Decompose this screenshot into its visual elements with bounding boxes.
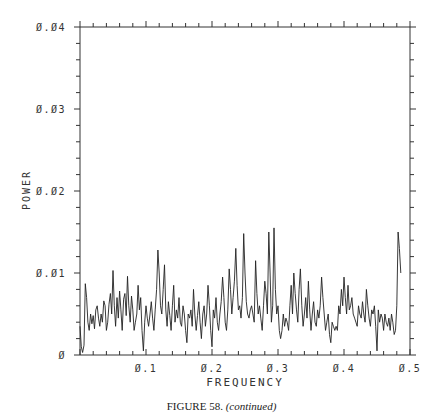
svg-text:Ø.4: Ø.4	[333, 363, 356, 374]
axes-frame	[80, 27, 410, 355]
svg-text:Ø.3: Ø.3	[267, 363, 290, 374]
svg-text:Ø.1: Ø.1	[135, 363, 158, 374]
svg-text:Ø.5: Ø.5	[399, 363, 422, 374]
y-tick-labels: ØØ.Ø1Ø.Ø2Ø.Ø3Ø.Ø4	[36, 22, 66, 361]
power-spectrum-chart: ØØ.Ø1Ø.Ø2Ø.Ø3Ø.Ø4 Ø.1Ø.2Ø.3Ø.4Ø.5 FREQUE…	[0, 0, 443, 420]
figure-caption: FIGURE 58. (continued)	[0, 400, 443, 412]
svg-text:Ø.Ø2: Ø.Ø2	[36, 186, 66, 197]
power-series-line	[80, 228, 401, 353]
caption-label: FIGURE 58.	[167, 400, 223, 412]
x-tick-labels: Ø.1Ø.2Ø.3Ø.4Ø.5	[135, 363, 422, 374]
svg-text:Ø.Ø1: Ø.Ø1	[36, 268, 66, 279]
svg-text:Ø.Ø4: Ø.Ø4	[36, 22, 66, 33]
svg-text:Ø.Ø3: Ø.Ø3	[36, 104, 66, 115]
svg-text:Ø: Ø	[58, 350, 66, 361]
x-axis-label: FREQUENCY	[206, 376, 284, 389]
caption-note: (continued)	[226, 400, 277, 412]
svg-text:Ø.2: Ø.2	[201, 363, 224, 374]
y-axis-label: POWER	[21, 170, 32, 210]
